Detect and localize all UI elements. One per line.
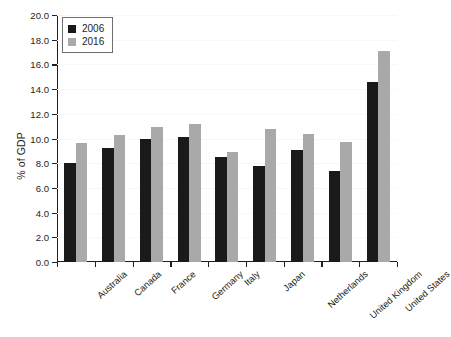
bar-2016 [76,143,88,262]
legend-label-2016: 2016 [82,37,104,47]
bar-2006 [64,163,76,262]
bar-2016 [114,135,126,262]
bar-2006 [253,166,265,262]
bar-group [284,15,322,262]
x-axis-tick [321,262,322,267]
x-axis-tick [284,262,285,267]
x-axis-label-france: France [169,269,197,296]
bar-2006 [102,148,114,262]
y-axis-tick-label: 6.0 [36,182,49,193]
bar-group [170,15,208,262]
bar-group [246,15,284,262]
legend-label-2006: 2006 [82,24,104,34]
x-axis-tick [246,262,247,267]
x-axis-tick [95,262,96,267]
bar-2016 [378,51,390,262]
y-axis-tick-label: 14.0 [30,84,49,95]
y-axis-tick-label: 20.0 [30,10,49,21]
bar-group [133,15,171,262]
x-axis-label-italy: Italy [242,269,261,288]
y-axis-tick-label: 0.0 [36,257,49,268]
bar-2006 [215,157,227,262]
bar-2016 [303,134,315,262]
x-axis-label-canada: Canada [133,269,164,298]
y-axis-tick-label: 12.0 [30,108,49,119]
bar-2006 [367,82,379,262]
bar-2016 [340,142,352,262]
y-axis-tick-label: 10.0 [30,133,49,144]
bar-2006 [140,139,152,263]
y-axis-tick-label: 2.0 [36,232,49,243]
y-axis-tick-label: 16.0 [30,59,49,70]
x-axis-label-australia: Australia [96,269,130,301]
bar-group [359,15,397,262]
bar-2016 [151,127,163,262]
x-axis-tick [208,262,209,267]
x-axis-tick [170,262,171,267]
bar-group [208,15,246,262]
bar-2016 [189,124,201,262]
y-axis-title: % of GDP [15,111,27,201]
x-axis-tick [397,262,398,267]
x-axis-tick [359,262,360,267]
legend-item-2016: 2016 [68,35,104,48]
black-square-swatch-icon [68,25,76,33]
bar-2016 [227,152,239,262]
y-axis-tick-label: 18.0 [30,34,49,45]
y-axis-tick-label: 8.0 [36,158,49,169]
x-axis-label-japan: Japan [282,269,308,293]
chart-legend: 2006 2016 [62,17,113,53]
x-axis-label-germany: Germany [210,269,245,302]
bar-2016 [265,129,277,262]
legend-item-2006: 2006 [68,22,104,35]
x-axis-tick [57,262,58,267]
bar-group [321,15,359,262]
gray-square-swatch-icon [68,38,76,46]
bar-2006 [291,150,303,262]
x-axis-tick [133,262,134,267]
x-axis-label-netherlands: Netherlands [326,269,370,310]
bar-2006 [329,171,341,262]
bar-2006 [178,137,190,262]
y-axis-tick-label: 4.0 [36,207,49,218]
